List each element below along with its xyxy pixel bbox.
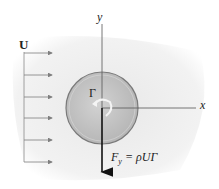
force-label: Fy = ρUΓ [111,150,157,166]
circulation-label: Γ [89,86,96,101]
x-axis-label: x [200,98,205,113]
y-axis-label: y [97,10,102,25]
diagram-canvas [0,0,219,189]
force-equation: = ρUΓ [122,150,157,164]
uniform-flow-label: U [19,37,28,53]
